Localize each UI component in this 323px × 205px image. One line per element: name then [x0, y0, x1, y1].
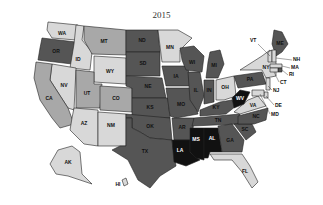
state-label: WI — [189, 59, 196, 65]
state-label: MS — [192, 136, 200, 142]
state-or: OR — [38, 38, 76, 64]
external-state-label: MD — [271, 111, 279, 117]
state-shape — [270, 68, 278, 72]
state-shape — [210, 154, 258, 188]
state-label: AZ — [81, 120, 88, 126]
state-shape — [98, 112, 126, 146]
state-de — [264, 92, 268, 98]
state-label: TN — [215, 117, 222, 123]
state-nj — [266, 78, 270, 90]
leader-line — [266, 96, 274, 105]
state-label: NM — [107, 122, 115, 128]
us-choropleth-map: WAORIDMTWYNVCAUTCOAZNMNDSDNEKSOKTXMNIAMO… — [0, 0, 323, 205]
state-label: MI — [211, 62, 217, 68]
state-label: WV — [236, 95, 245, 101]
state-shape — [70, 108, 98, 146]
state-label: SC — [242, 126, 249, 132]
state-nd: ND — [126, 30, 160, 52]
external-state-label: DE — [275, 102, 283, 108]
state-label: FL — [242, 168, 248, 174]
state-label: TX — [142, 148, 149, 154]
state-label: IL — [194, 87, 198, 93]
state-label: CO — [112, 95, 120, 101]
state-label: NE — [145, 83, 153, 89]
state-shape — [270, 64, 282, 68]
state-label: NY — [263, 64, 271, 70]
state-hi: HI — [116, 178, 129, 187]
state-shape — [266, 78, 270, 90]
state-label: CA — [45, 95, 53, 101]
external-state-label: NJ — [273, 87, 280, 93]
state-oh: OH — [216, 76, 236, 100]
state-label: IN — [207, 87, 212, 93]
state-label: ME — [276, 40, 284, 46]
state-fl: FL — [210, 154, 258, 188]
state-shape — [264, 92, 268, 98]
state-label: OK — [146, 123, 154, 129]
state-shape — [252, 90, 264, 96]
state-label: MN — [166, 44, 174, 50]
state-co: CO — [100, 86, 132, 112]
state-wa: WA — [47, 22, 78, 40]
state-tn: TN — [192, 114, 240, 126]
state-label: SD — [140, 60, 147, 66]
external-state-label: RI — [289, 71, 295, 77]
state-in: IN — [204, 80, 214, 104]
state-shape — [272, 50, 276, 62]
state-sd: SD — [126, 52, 160, 76]
leader-line — [274, 72, 279, 82]
state-ma — [270, 64, 282, 68]
state-label: OH — [221, 84, 229, 90]
state-az: AZ — [70, 108, 98, 146]
state-label: MO — [177, 101, 185, 107]
state-label: LA — [177, 147, 184, 153]
external-state-label: VT — [250, 37, 256, 43]
external-state-label: MA — [291, 64, 299, 70]
state-ne: NE — [126, 76, 166, 98]
state-label: KS — [147, 104, 155, 110]
state-label: VA — [250, 102, 257, 108]
state-mt: MT — [84, 26, 126, 55]
state-nh — [272, 50, 276, 62]
state-label: AK — [64, 159, 72, 165]
external-state-label: NH — [293, 56, 301, 62]
state-ri — [278, 68, 282, 72]
state-mi: MI — [206, 50, 224, 78]
state-label: ID — [76, 56, 81, 62]
state-label: WA — [58, 30, 66, 36]
leader-line — [282, 70, 288, 75]
state-label: KY — [213, 104, 221, 110]
state-label: UT — [84, 90, 91, 96]
state-ct — [270, 68, 278, 72]
state-label: MT — [100, 38, 107, 44]
state-label: HI — [116, 181, 122, 187]
state-label: PA — [247, 76, 254, 82]
state-label: ND — [138, 37, 146, 43]
leader-line — [276, 58, 292, 60]
state-label: IA — [174, 73, 179, 79]
state-ak: AK — [50, 146, 92, 184]
leader-line — [282, 66, 290, 68]
state-label: AR — [178, 124, 186, 130]
state-shape — [278, 68, 282, 72]
state-label: NV — [61, 82, 69, 88]
state-label: NC — [252, 113, 260, 119]
state-wy: WY — [94, 56, 126, 84]
state-md — [252, 90, 264, 96]
state-shape — [122, 178, 128, 186]
state-label: WY — [106, 68, 115, 74]
state-nm: NM — [98, 112, 126, 146]
state-pa: PA — [234, 72, 266, 88]
external-state-label: CT — [280, 79, 287, 85]
state-label: OR — [52, 48, 60, 54]
state-label: AL — [209, 135, 216, 141]
state-label: GA — [226, 137, 234, 143]
